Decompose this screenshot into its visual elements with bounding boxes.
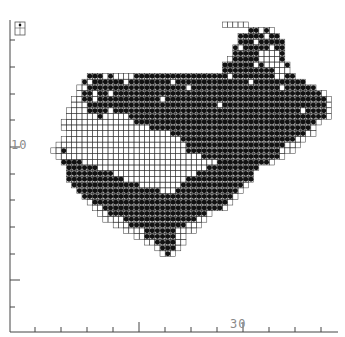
grid-cells <box>51 22 332 257</box>
y-ticks <box>10 40 20 307</box>
x-axis-label: 30 <box>230 317 246 331</box>
y-axis-label: 10 <box>11 138 27 152</box>
distribution-map <box>0 0 345 337</box>
key-box-icon <box>15 22 25 35</box>
x-ticks <box>35 322 321 332</box>
